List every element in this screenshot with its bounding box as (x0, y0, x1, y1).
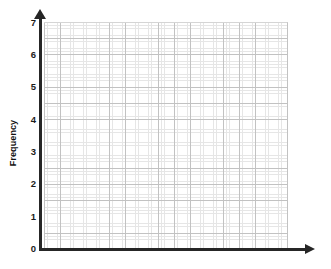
y-tick-label-3: 3 (22, 147, 36, 157)
x-axis-right-arrow-icon (305, 244, 315, 254)
y-tick-label-6: 6 (22, 50, 36, 60)
y-axis-title: Frequency (8, 108, 18, 178)
y-axis-tick-labels: 7 6 5 4 3 2 1 0 (16, 0, 36, 269)
graph-paper-grid (44, 22, 288, 249)
y-tick-label-1: 1 (22, 212, 36, 222)
y-tick-label-5: 5 (22, 82, 36, 92)
y-axis-line (39, 14, 42, 250)
y-tick-label-7: 7 (22, 18, 36, 28)
chart-canvas: 7 6 5 4 3 2 1 0 Frequency (0, 0, 331, 269)
y-tick-label-2: 2 (22, 179, 36, 189)
y-tick-label-4: 4 (22, 115, 36, 125)
y-tick-label-0: 0 (22, 244, 36, 254)
x-axis-line (39, 248, 311, 251)
